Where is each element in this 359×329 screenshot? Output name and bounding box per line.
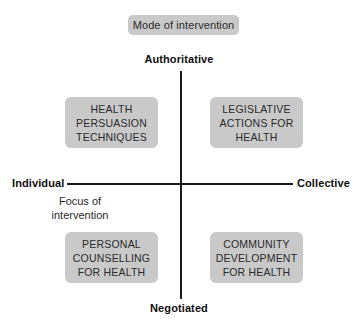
axis-label-negotiated: Negotiated [0, 302, 359, 314]
quadrant-text-line: PERSUASION [76, 116, 147, 130]
caption-line-1: Focus of [59, 195, 101, 207]
quadrant-text-line: COMMUNITY [216, 237, 298, 251]
quadrant-text-line: FOR HEALTH [73, 265, 150, 279]
quadrant-box-health-persuasion-techniques: HEALTH PERSUASION TECHNIQUES [65, 97, 158, 148]
quadrant-text-line: TECHNIQUES [76, 130, 147, 144]
quadrant-text-line: ACTIONS FOR [220, 116, 294, 130]
caption-line-2: intervention [52, 209, 109, 221]
quadrant-box-legislative-actions-for-health: LEGISLATIVE ACTIONS FOR HEALTH [210, 97, 303, 148]
axis-label-collective: Collective [297, 177, 350, 189]
mode-of-intervention-label: Mode of intervention [128, 15, 239, 35]
quadrant-text-line: COUNSELLING [73, 251, 150, 265]
horizontal-axis-line [67, 183, 293, 185]
quadrant-text-line: HEALTH [76, 102, 147, 116]
diagram-canvas: Mode of intervention Authoritative Negot… [0, 0, 359, 329]
focus-of-intervention-caption: Focus of intervention [32, 194, 128, 222]
quadrant-box-personal-counselling-for-health: PERSONAL COUNSELLING FOR HEALTH [65, 232, 158, 283]
axis-label-individual: Individual [12, 177, 64, 189]
quadrant-text-line: LEGISLATIVE [220, 102, 294, 116]
axis-label-authoritative: Authoritative [0, 53, 359, 65]
quadrant-box-community-development-for-health: COMMUNITY DEVELOPMENT FOR HEALTH [210, 232, 303, 283]
quadrant-text-line: HEALTH [220, 130, 294, 144]
vertical-axis-line [180, 71, 182, 299]
quadrant-text-line: FOR HEALTH [216, 265, 298, 279]
quadrant-text-line: DEVELOPMENT [216, 251, 298, 265]
quadrant-text-line: PERSONAL [73, 237, 150, 251]
